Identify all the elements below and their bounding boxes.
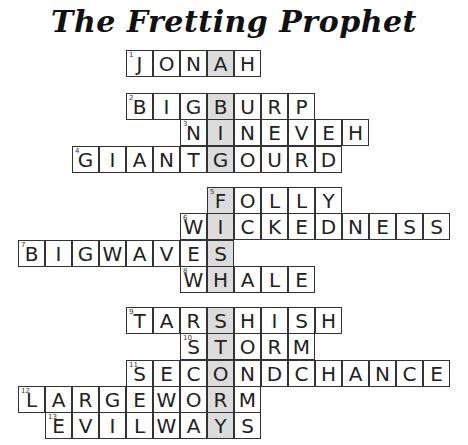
letter-cell[interactable]: R	[72, 386, 99, 413]
letter-cell[interactable]: E	[126, 386, 153, 413]
letter-cell[interactable]: O	[234, 187, 261, 214]
highlighted-cell[interactable]: O	[207, 360, 234, 387]
highlighted-cell[interactable]: H	[207, 266, 234, 293]
letter-cell[interactable]: O	[180, 386, 207, 413]
letter-cell[interactable]: N	[342, 213, 369, 240]
letter-cell[interactable]: T	[180, 146, 207, 173]
letter-cell[interactable]: R	[261, 93, 288, 120]
letter-cell[interactable]: C	[396, 360, 423, 387]
letter-cell[interactable]: I	[99, 146, 126, 173]
letter-cell[interactable]: V	[72, 412, 99, 439]
letter-cell[interactable]: K	[261, 213, 288, 240]
highlighted-cell[interactable]: A	[207, 50, 234, 77]
letter-cell[interactable]: E	[180, 240, 207, 267]
highlighted-cell[interactable]: S	[207, 307, 234, 334]
letter-cell[interactable]: R	[180, 307, 207, 334]
letter-cell[interactable]: N	[180, 50, 207, 77]
highlighted-cell[interactable]: I	[207, 213, 234, 240]
letter-cell[interactable]: O	[153, 50, 180, 77]
letter-cell[interactable]: D	[315, 213, 342, 240]
letter-cell[interactable]: 10S	[180, 333, 207, 360]
letter-cell[interactable]: S	[423, 213, 450, 240]
letter-cell[interactable]: 13E	[45, 412, 72, 439]
letter-cell[interactable]: I	[99, 412, 126, 439]
letter-cell[interactable]: N	[153, 146, 180, 173]
letter-cell[interactable]: M	[234, 386, 261, 413]
letter-cell[interactable]: L	[261, 187, 288, 214]
letter-cell[interactable]: 4G	[72, 146, 99, 173]
letter-cell[interactable]: U	[261, 146, 288, 173]
letter-cell[interactable]: W	[153, 386, 180, 413]
letter-cell[interactable]: V	[288, 119, 315, 146]
letter-cell[interactable]: D	[315, 146, 342, 173]
letter-cell[interactable]: I	[153, 93, 180, 120]
letter-cell[interactable]: E	[153, 360, 180, 387]
letter-cell[interactable]: 3N	[180, 119, 207, 146]
letter-cell[interactable]: H	[342, 119, 369, 146]
highlighted-cell[interactable]: R	[207, 386, 234, 413]
highlighted-cell[interactable]: 5F	[207, 187, 234, 214]
letter-cell[interactable]: L	[126, 412, 153, 439]
letter-cell[interactable]: 6W	[180, 213, 207, 240]
letter-cell[interactable]: E	[315, 119, 342, 146]
letter-cell[interactable]: M	[288, 333, 315, 360]
letter-cell[interactable]: 11S	[126, 360, 153, 387]
letter-cell[interactable]: Y	[315, 187, 342, 214]
letter-cell[interactable]: C	[288, 360, 315, 387]
letter-cell[interactable]: G	[180, 93, 207, 120]
letter-cell[interactable]: 8W	[180, 266, 207, 293]
letter-cell[interactable]: E	[288, 213, 315, 240]
letter-cell[interactable]: C	[234, 213, 261, 240]
letter-cell[interactable]: N	[234, 119, 261, 146]
letter-cell[interactable]: A	[126, 146, 153, 173]
letter-cell[interactable]: E	[423, 360, 450, 387]
letter-cell[interactable]: R	[261, 333, 288, 360]
highlighted-cell[interactable]: G	[207, 146, 234, 173]
letter-cell[interactable]: G	[72, 240, 99, 267]
letter-cell[interactable]: 12L	[18, 386, 45, 413]
letter-cell[interactable]: H	[234, 50, 261, 77]
letter-cell[interactable]: A	[45, 386, 72, 413]
letter-cell[interactable]: I	[261, 307, 288, 334]
clue-number: 13	[48, 413, 57, 421]
letter-cell[interactable]: 1J	[126, 50, 153, 77]
letter-cell[interactable]: A	[180, 412, 207, 439]
letter-cell[interactable]: E	[369, 213, 396, 240]
letter-cell[interactable]: E	[261, 119, 288, 146]
letter-cell[interactable]: I	[45, 240, 72, 267]
highlighted-cell[interactable]: B	[207, 93, 234, 120]
letter-cell[interactable]: L	[261, 266, 288, 293]
letter-cell[interactable]: H	[315, 307, 342, 334]
highlighted-cell[interactable]: T	[207, 333, 234, 360]
letter-cell[interactable]: S	[396, 213, 423, 240]
letter-cell[interactable]: N	[234, 360, 261, 387]
letter-cell[interactable]: E	[288, 266, 315, 293]
letter-cell[interactable]: N	[369, 360, 396, 387]
letter-cell[interactable]: R	[288, 146, 315, 173]
letter-cell[interactable]: U	[234, 93, 261, 120]
letter-cell[interactable]: O	[234, 333, 261, 360]
letter-cell[interactable]: W	[99, 240, 126, 267]
letter-cell[interactable]: 9T	[126, 307, 153, 334]
letter-cell[interactable]: 2B	[126, 93, 153, 120]
highlighted-cell[interactable]: Y	[207, 412, 234, 439]
letter-cell[interactable]: A	[234, 266, 261, 293]
highlighted-cell[interactable]: I	[207, 119, 234, 146]
letter-cell[interactable]: A	[126, 240, 153, 267]
letter-cell[interactable]: A	[153, 307, 180, 334]
letter-cell[interactable]: S	[288, 307, 315, 334]
letter-cell[interactable]: V	[153, 240, 180, 267]
letter-cell[interactable]: C	[180, 360, 207, 387]
letter-cell[interactable]: H	[234, 307, 261, 334]
letter-cell[interactable]: W	[153, 412, 180, 439]
letter-cell[interactable]: A	[342, 360, 369, 387]
letter-cell[interactable]: 7B	[18, 240, 45, 267]
highlighted-cell[interactable]: S	[207, 240, 234, 267]
letter-cell[interactable]: S	[234, 412, 261, 439]
letter-cell[interactable]: H	[315, 360, 342, 387]
letter-cell[interactable]: P	[288, 93, 315, 120]
letter-cell[interactable]: G	[99, 386, 126, 413]
letter-cell[interactable]: O	[234, 146, 261, 173]
letter-cell[interactable]: D	[261, 360, 288, 387]
letter-cell[interactable]: L	[288, 187, 315, 214]
